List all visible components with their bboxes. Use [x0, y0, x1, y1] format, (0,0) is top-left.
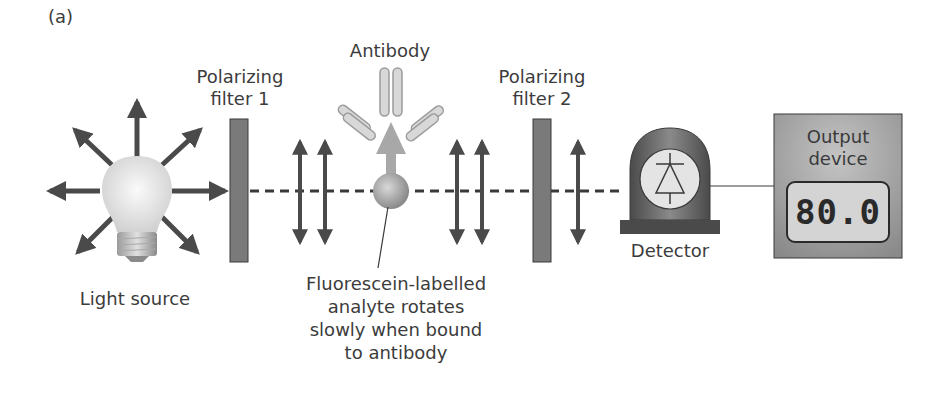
analyte-label-line4: to antibody — [296, 341, 496, 364]
analyte-label-line3: slowly when bound — [296, 318, 496, 341]
filter-1-label: Polarizing filter 1 — [180, 66, 300, 110]
output-device-label-line2: device — [774, 148, 902, 170]
output-device-label-line1: Output — [774, 126, 902, 148]
panel-label: (a) — [48, 6, 73, 28]
filter-1-label-line2: filter 1 — [180, 88, 300, 110]
light-source-label: Light source — [60, 288, 210, 310]
output-reading: 80.0 — [787, 190, 889, 234]
filter-2-label-line2: filter 2 — [482, 88, 602, 110]
polarizing-filter-1 — [230, 119, 248, 262]
analyte-label: Fluorescein-labelled analyte rotates slo… — [296, 272, 496, 364]
detector-icon — [620, 128, 720, 234]
filter-2-label: Polarizing filter 2 — [482, 66, 602, 110]
light-bulb-icon — [102, 156, 172, 262]
analyte-icon — [373, 122, 409, 268]
filter-2-label-line1: Polarizing — [482, 66, 602, 88]
output-device-label: Output device — [774, 126, 902, 170]
filter-1-label-line1: Polarizing — [180, 66, 300, 88]
analyte-label-line1: Fluorescein-labelled — [296, 272, 496, 295]
antibody-label: Antibody — [340, 40, 440, 62]
analyte-label-line2: analyte rotates — [296, 295, 496, 318]
detector-label: Detector — [615, 240, 725, 262]
polarizing-filter-2 — [533, 119, 551, 262]
